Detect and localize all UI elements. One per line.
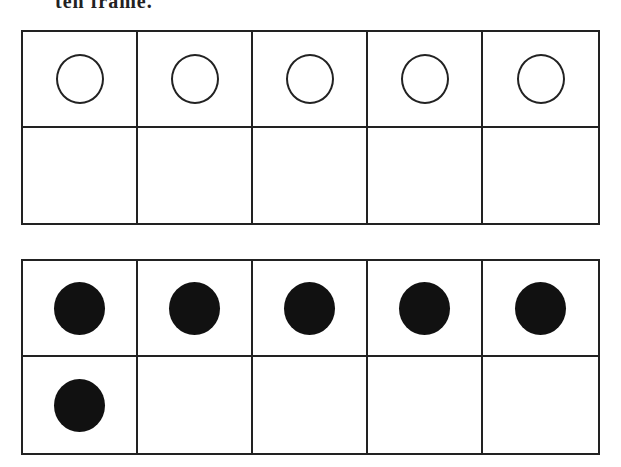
- filled-circle-icon: [399, 282, 450, 335]
- open-circle-icon: [401, 54, 449, 104]
- filled-circle-icon: [515, 282, 566, 335]
- filled-circle-icon: [284, 282, 335, 335]
- filled-circle-icon: [169, 282, 220, 335]
- filled-circle-icon: [54, 379, 105, 432]
- frame-cell: [368, 32, 483, 128]
- open-circle-icon: [56, 54, 104, 104]
- frame-cell: [368, 357, 483, 453]
- frame-cell: [368, 128, 483, 224]
- frame-cell: [23, 32, 138, 128]
- frame-cell: [138, 128, 253, 224]
- frame-cell: [138, 357, 253, 453]
- frame-cell: [23, 128, 138, 224]
- open-circle-icon: [517, 54, 565, 104]
- frame-cell: [483, 32, 598, 128]
- filled-circle-icon: [54, 282, 105, 335]
- ten-frame-open-counters: [21, 30, 600, 225]
- frame-cell: [253, 357, 368, 453]
- frame-cell: [483, 128, 598, 224]
- instruction-text-cut: ten frame.: [55, 0, 153, 13]
- frame-cell: [23, 261, 138, 357]
- frame-cell: [138, 32, 253, 128]
- frame-cell: [253, 261, 368, 357]
- frame-cell: [253, 32, 368, 128]
- open-circle-icon: [286, 54, 334, 104]
- frame-cell: [483, 261, 598, 357]
- frame-cell: [483, 357, 598, 453]
- ten-frame-filled-counters: [21, 259, 600, 455]
- frame-cell: [368, 261, 483, 357]
- frame-cell: [253, 128, 368, 224]
- frame-cell: [23, 357, 138, 453]
- open-circle-icon: [171, 54, 219, 104]
- frame-cell: [138, 261, 253, 357]
